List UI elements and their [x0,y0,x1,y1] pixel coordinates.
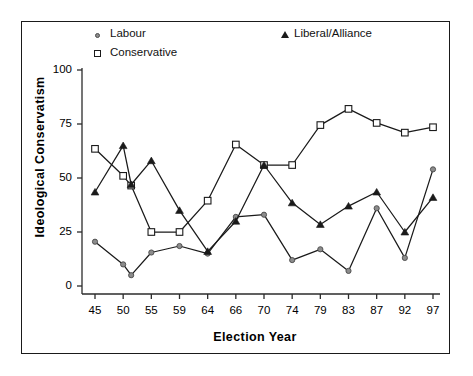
y-tick-label: 50 [38,171,72,183]
series-line [95,169,433,275]
data-point-triangle [176,207,184,214]
data-point-circle [149,250,154,255]
data-point-triangle [288,199,296,206]
x-tick-label: 55 [136,304,166,316]
y-tick-label: 100 [38,63,72,75]
x-tick-label: 50 [108,304,138,316]
data-point-square [289,162,296,169]
data-point-circle [402,255,407,260]
data-point-triangle [147,157,155,164]
chart-figure: Labour Conservative Liberal/Alliance Ide… [0,0,473,376]
plot-area [0,0,473,376]
data-point-triangle [429,194,437,201]
data-point-circle [374,206,379,211]
data-point-circle [430,167,435,172]
data-point-triangle [345,202,353,209]
x-tick-label: 87 [362,304,392,316]
x-tick-label: 97 [418,304,448,316]
data-point-triangle [373,188,381,195]
data-point-square [176,229,183,236]
data-point-circle [92,239,97,244]
x-tick-label: 70 [249,304,279,316]
series-liberal-alliance [91,142,437,254]
data-point-triangle [91,188,99,195]
data-point-square [317,122,324,129]
data-point-circle [261,212,266,217]
x-tick-label: 79 [305,304,335,316]
x-tick-label: 59 [165,304,195,316]
y-tick-label: 25 [38,225,72,237]
data-point-square [233,141,240,148]
series-labour [92,167,435,278]
data-point-square [402,129,409,136]
data-point-circle [290,257,295,262]
y-tick-label: 0 [38,279,72,291]
data-point-square [92,146,99,153]
data-point-circle [346,268,351,273]
y-tick-label: 75 [38,117,72,129]
x-tick-label: 74 [277,304,307,316]
data-point-square [345,106,352,113]
data-point-circle [318,247,323,252]
data-point-square [120,173,127,180]
x-tick-label: 92 [390,304,420,316]
data-point-square [148,229,155,236]
x-tick-label: 83 [334,304,364,316]
data-point-square [373,120,380,127]
data-point-circle [121,262,126,267]
data-point-circle [177,243,182,248]
data-point-triangle [119,142,127,149]
data-point-circle [129,273,134,278]
x-tick-label: 45 [80,304,110,316]
data-point-square [204,197,211,204]
x-tick-label: 64 [193,304,223,316]
data-point-square [430,124,437,131]
x-tick-label: 66 [221,304,251,316]
